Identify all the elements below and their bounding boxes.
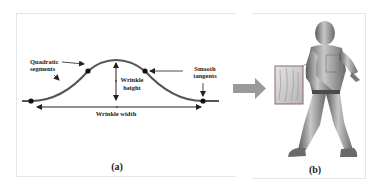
- segment-point-mid-right: [142, 68, 147, 73]
- segment-point-right: [200, 98, 205, 103]
- height-label-line2: height: [123, 84, 141, 91]
- quadratic-pointer-arrow: [62, 62, 84, 64]
- smooth-label-line1: Smooth: [194, 65, 216, 72]
- character-leg-right: [326, 94, 353, 151]
- quadratic-pointer-arrow-2: [54, 75, 59, 80]
- character-shoe-left: [288, 148, 306, 157]
- caption-b: (b): [309, 164, 321, 176]
- height-label-line1: Wrinkle: [121, 76, 144, 83]
- smooth-label-line2: tangents: [193, 72, 217, 79]
- transition-arrow-icon: [233, 78, 266, 99]
- character-shoe-right: [340, 148, 357, 157]
- width-label: Wrinkle width: [96, 110, 137, 117]
- caption-a: (a): [111, 161, 123, 173]
- segment-point-left: [28, 98, 33, 103]
- character-belt: [312, 90, 340, 94]
- quadratic-label-line2: segments: [30, 65, 56, 72]
- character-render: (b): [275, 21, 360, 176]
- segment-point-mid-left: [85, 68, 90, 73]
- character-head: [315, 21, 335, 45]
- figure-canvas: Quadratic segments Smooth tangents Wrink…: [0, 0, 381, 188]
- quadratic-label-line1: Quadratic: [30, 58, 59, 65]
- wrinkle-diagram: Quadratic segments Smooth tangents Wrink…: [22, 58, 219, 173]
